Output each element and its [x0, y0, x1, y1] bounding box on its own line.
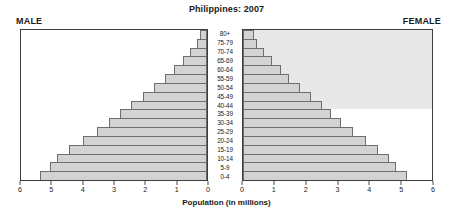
female-bar-rows — [243, 30, 432, 180]
age-group-label: 5-9 — [208, 163, 242, 172]
female-bar — [243, 39, 257, 48]
male-bar — [200, 30, 207, 39]
axis-tick-label: 1 — [272, 185, 276, 194]
male-bar — [197, 39, 207, 48]
age-group-label: 45-49 — [208, 92, 242, 101]
axis-tick-label: 1 — [175, 185, 179, 194]
age-group-label: 10-14 — [208, 154, 242, 163]
male-bar — [40, 171, 207, 180]
female-bar — [243, 118, 341, 127]
female-bar — [243, 30, 254, 39]
female-bar — [243, 92, 311, 101]
pyramid-row — [243, 101, 432, 110]
male-bar — [174, 65, 207, 74]
male-bar — [165, 74, 207, 83]
pyramid-row — [21, 92, 207, 101]
male-plot-panel — [20, 29, 208, 181]
pyramid-row — [21, 30, 207, 39]
pyramid-row — [243, 127, 432, 136]
male-bar — [131, 101, 207, 110]
axis-tick-label: 0 — [206, 185, 210, 194]
pyramid-row — [21, 136, 207, 145]
age-group-label: 25-29 — [208, 127, 242, 136]
male-bar — [69, 145, 207, 154]
age-group-label: 15-19 — [208, 145, 242, 154]
pyramid-row — [243, 154, 432, 163]
pyramid-row — [243, 65, 432, 74]
axis-tick-label: 3 — [336, 185, 340, 194]
pyramid-row — [243, 171, 432, 180]
female-bar — [243, 145, 378, 154]
female-bar — [243, 162, 396, 171]
pyramid-row — [21, 162, 207, 171]
pyramid-row — [243, 136, 432, 145]
x-axis-label: Population (in millions) — [0, 198, 453, 207]
male-panel-caption: MALE — [16, 16, 42, 26]
axis-tick-label: 5 — [399, 185, 403, 194]
female-bar — [243, 136, 366, 145]
male-bar — [97, 127, 207, 136]
male-bar — [109, 118, 207, 127]
male-bar — [120, 109, 207, 118]
male-bar — [50, 162, 207, 171]
female-bar — [243, 109, 331, 118]
male-x-axis: 6543210 — [20, 181, 208, 195]
pyramid-row — [21, 74, 207, 83]
female-bar — [243, 74, 289, 83]
pyramid-row — [21, 171, 207, 180]
pyramid-row — [21, 154, 207, 163]
pyramid-row — [21, 101, 207, 110]
pyramid-row — [243, 162, 432, 171]
axis-tick-label: 3 — [112, 185, 116, 194]
age-group-label: 30-34 — [208, 118, 242, 127]
male-bar — [183, 56, 207, 65]
pyramid-row — [243, 74, 432, 83]
age-group-label: 35-39 — [208, 110, 242, 119]
pyramid-row — [21, 127, 207, 136]
axis-tick-label: 2 — [143, 185, 147, 194]
male-bar-rows — [21, 30, 207, 180]
female-bar — [243, 83, 300, 92]
age-group-label: 0-4 — [208, 172, 242, 181]
female-bar — [243, 171, 407, 180]
pyramid-row — [243, 48, 432, 57]
pyramid-row — [243, 145, 432, 154]
age-group-label: 75-79 — [208, 38, 242, 47]
female-bar — [243, 48, 264, 57]
female-panel-caption: FEMALE — [403, 16, 441, 26]
age-group-label: 40-44 — [208, 101, 242, 110]
age-group-label: 60-64 — [208, 65, 242, 74]
axis-tick-label: 0 — [240, 185, 244, 194]
pyramid-row — [21, 118, 207, 127]
male-bar — [143, 92, 207, 101]
age-group-label: 80+ — [208, 29, 242, 38]
pyramid-row — [243, 109, 432, 118]
pyramid-row — [243, 30, 432, 39]
pyramid-row — [21, 65, 207, 74]
age-group-axis: 0-45-910-1415-1920-2425-2930-3435-3940-4… — [208, 29, 242, 181]
pyramid-row — [21, 39, 207, 48]
female-bar — [243, 101, 322, 110]
axis-tick-label: 6 — [18, 185, 22, 194]
axis-tick-label: 6 — [431, 185, 435, 194]
male-bar — [83, 136, 207, 145]
pyramid-row — [21, 56, 207, 65]
female-x-axis: 0123456 — [242, 181, 433, 195]
pyramid-row — [21, 109, 207, 118]
female-bar — [243, 65, 281, 74]
pyramid-row — [21, 145, 207, 154]
female-bar — [243, 154, 389, 163]
male-bar — [57, 154, 207, 163]
axis-tick-label: 4 — [367, 185, 371, 194]
pyramid-row — [243, 39, 432, 48]
chart-title: Philippines: 2007 — [0, 4, 453, 14]
age-group-label: 50-54 — [208, 83, 242, 92]
axis-tick-label: 5 — [49, 185, 53, 194]
population-pyramid-chart: Philippines: 2007 MALE FEMALE 0-45-910-1… — [0, 0, 453, 216]
axis-tick-label: 2 — [304, 185, 308, 194]
pyramid-row — [243, 118, 432, 127]
male-bar — [190, 48, 207, 57]
female-bar — [243, 127, 353, 136]
male-bar — [154, 83, 207, 92]
pyramid-row — [243, 92, 432, 101]
